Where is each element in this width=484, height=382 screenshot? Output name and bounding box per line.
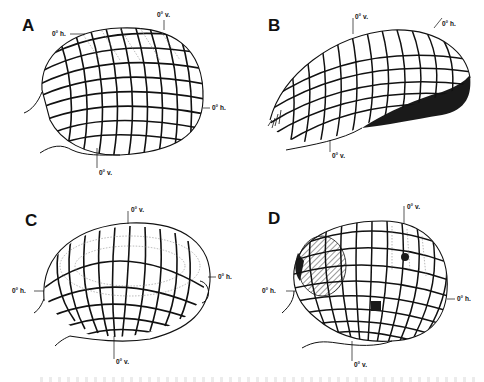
axis-label-bottom-vertical: 0° v. [116,359,129,366]
axis-label-top-vertical: 0° v. [407,204,420,211]
axis-label-left-horizontal: 0° h. [12,288,26,295]
panel-d: D 0° v. 0° h. 0° h. 0° v. [242,191,484,382]
panel-label-a: A [22,17,34,34]
axis-label-right-horizontal: 0° h. [212,105,226,112]
axis-label-top-vertical: 0° v. [131,207,144,214]
panel-b: B 0° v. 0° h. 0° v. [242,0,484,191]
globe-map-a [0,0,242,191]
axis-label-top-vertical: 0° v. [355,14,368,21]
panel-c: C 0° v. 0° h. 0° h. 0° v. [0,191,242,382]
panel-a: A 0° v. 0° h. 0° h. 0° v. [0,0,242,191]
axis-label-left-horizontal: 0° h. [262,288,276,295]
panel-label-d: D [268,210,280,227]
axis-label-right-horizontal: 0° h. [457,296,471,303]
axis-label-top-vertical: 0° v. [157,12,170,19]
cropped-caption-fragment [40,377,480,382]
axis-label-bottom-vertical: 0° v. [332,153,345,160]
panel-label-b: B [268,17,280,34]
panel-label-c: C [25,212,37,229]
axis-label-bottom-vertical: 0° v. [354,362,367,369]
axis-label-bottom-vertical: 0° v. [99,170,112,177]
axis-label-right-horizontal: 0° h. [218,274,232,281]
axis-label-top-horizontal: 0° h. [442,21,456,28]
axis-label-top-horizontal: 0° h. [52,31,66,38]
